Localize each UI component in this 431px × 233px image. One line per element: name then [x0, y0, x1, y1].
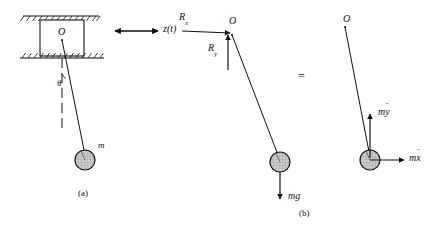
- angle-arc-theta: [62, 74, 66, 79]
- displacement-label: z(t): [163, 24, 176, 34]
- reaction-y-label: Ry: [208, 43, 217, 56]
- inertia-x-double-dot: ¨: [417, 148, 420, 156]
- inertia-x-accented-var: x¨: [416, 153, 420, 163]
- mass-label-a: m: [98, 141, 105, 150]
- reaction-x-arrow: [182, 31, 230, 33]
- pendulum-rod-c: [345, 27, 369, 152]
- inertia-y-label: my¨: [378, 107, 390, 117]
- pendulum-rod-a: [62, 40, 85, 155]
- equals-sign: =: [298, 70, 305, 82]
- reaction-y-subscript: y: [214, 50, 217, 57]
- inertia-y-double-dot: ¨: [386, 102, 389, 110]
- inertia-x-label: mx¨: [409, 153, 421, 163]
- inertia-y-accented-var: y¨: [385, 107, 389, 117]
- weight-label: mg: [288, 191, 300, 201]
- angle-label-theta: θ: [57, 79, 61, 88]
- caption-a: (a): [78, 189, 88, 198]
- reaction-x-subscript: x: [185, 19, 188, 26]
- caption-b: (b): [299, 209, 310, 218]
- pendulum-rod-b: [232, 35, 278, 155]
- pivot-label-b: O: [229, 16, 236, 26]
- pivot-label-a: O: [58, 27, 65, 37]
- reaction-x-label: Rx: [179, 12, 188, 25]
- pivot-label-c: O: [343, 14, 350, 24]
